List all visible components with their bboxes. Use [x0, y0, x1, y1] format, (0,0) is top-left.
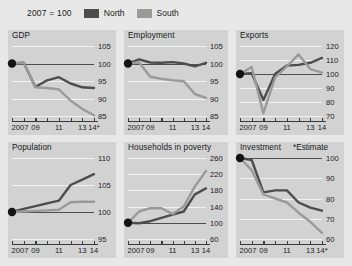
- x-axis-tick: [59, 241, 60, 244]
- x-axis-tick: [184, 118, 185, 121]
- y-axis-tick-label: 120: [326, 42, 339, 51]
- x-axis-tick-label: 14*: [88, 123, 99, 132]
- y-axis-tick-label: 95: [98, 77, 106, 86]
- x-axis-tick: [299, 241, 300, 244]
- y-axis-tick-label: 105: [210, 42, 223, 51]
- chart-panel: Employment859095100105200709111314: [124, 30, 228, 135]
- x-axis-tick: [206, 241, 207, 244]
- x-axis-tick: [240, 118, 241, 121]
- origin-marker-dot: [124, 59, 132, 67]
- y-axis-tick-label: 140: [210, 202, 223, 211]
- y-axis-tick-label: 105: [98, 42, 111, 51]
- y-axis-tick-label: 110: [98, 154, 110, 163]
- x-axis-tick-label: 09: [259, 123, 267, 132]
- series-line-north: [240, 158, 322, 211]
- x-axis-tick-label: 14: [90, 246, 98, 255]
- x-axis-tick-label: 2007: [128, 123, 145, 132]
- y-axis-tick-label: 100: [210, 59, 223, 68]
- x-axis-tick: [206, 118, 207, 121]
- panel-title: Households in poverty: [128, 143, 211, 152]
- x-axis-tick-label: 13: [191, 123, 199, 132]
- y-axis-tick-label: 100: [326, 154, 339, 163]
- legend-base-label: 2007 = 100: [27, 8, 72, 18]
- x-axis-line: [240, 121, 326, 122]
- x-axis-tick: [24, 241, 25, 244]
- legend-swatch-north: [84, 9, 99, 18]
- panel-title: Exports: [240, 31, 268, 40]
- x-axis-tick-label: 11: [283, 123, 291, 132]
- x-axis-tick: [252, 241, 253, 244]
- y-axis-tick-label: 90: [210, 94, 218, 103]
- x-axis-tick: [299, 118, 300, 121]
- gridline: [240, 116, 322, 117]
- x-axis-tick: [128, 241, 129, 244]
- chart-panel: Exports708090100110120200709111314: [236, 30, 344, 135]
- y-axis-tick-label: 105: [98, 181, 111, 190]
- x-axis-tick: [240, 241, 241, 244]
- y-axis-tick-label: 85: [210, 112, 218, 121]
- plot-area: 708090100110120: [240, 46, 322, 116]
- legend-label-south: South: [157, 8, 179, 18]
- series-lines: [128, 46, 206, 116]
- x-axis-tick: [263, 241, 264, 244]
- x-axis-tick: [71, 241, 72, 244]
- series-line-north: [12, 174, 94, 212]
- series-line-south: [128, 63, 206, 98]
- panel-title: GDP: [12, 31, 30, 40]
- y-axis-tick-label: 60: [326, 235, 334, 244]
- series-lines: [12, 158, 94, 239]
- y-axis-tick-label: 90: [98, 94, 106, 103]
- x-axis-tick-label: 11: [55, 123, 63, 132]
- x-axis-tick-label: 11: [169, 246, 177, 255]
- x-axis-tick: [35, 118, 36, 121]
- x-axis-line: [128, 244, 210, 245]
- x-axis-tick: [310, 241, 311, 244]
- x-axis-line: [12, 121, 98, 122]
- plot-area: 859095100105: [12, 46, 94, 116]
- x-axis-tick: [47, 118, 48, 121]
- series-lines: [12, 46, 94, 116]
- y-axis-tick-label: 60: [210, 235, 218, 244]
- x-axis-tick-label: 13: [306, 246, 314, 255]
- x-axis-tick-label: 2007: [12, 123, 29, 132]
- gridline: [128, 239, 206, 240]
- x-axis-tick: [252, 118, 253, 121]
- y-axis-tick-label: 70: [326, 214, 334, 223]
- panel-title: Investment: [240, 143, 281, 152]
- y-axis-tick-label: 90: [326, 84, 334, 93]
- chart-panel: Population95100105110200709111314: [8, 142, 116, 258]
- x-axis-tick: [82, 118, 83, 121]
- series-line-north: [240, 58, 322, 100]
- x-axis-tick: [173, 241, 174, 244]
- y-axis-tick-label: 110: [326, 56, 338, 65]
- x-axis-tick: [59, 118, 60, 121]
- x-axis-tick: [195, 118, 196, 121]
- x-axis-tick: [94, 118, 95, 121]
- y-axis-tick-label: 90: [326, 174, 334, 183]
- x-axis-tick-label: 2007: [240, 123, 257, 132]
- x-axis-tick-label: 14*: [316, 246, 327, 255]
- y-axis-tick-label: 100: [210, 218, 223, 227]
- x-axis-tick: [94, 241, 95, 244]
- y-axis-tick-label: 95: [98, 235, 106, 244]
- x-axis-tick-label: 09: [31, 246, 39, 255]
- x-axis-tick: [322, 118, 323, 121]
- x-axis-tick-label: 14: [202, 246, 210, 255]
- x-axis-tick: [12, 118, 13, 121]
- x-axis-line: [240, 244, 326, 245]
- origin-marker-dot: [8, 208, 16, 216]
- x-axis-tick: [287, 241, 288, 244]
- series-lines: [240, 46, 322, 116]
- chart-figure: 2007 = 100 North South GDP85909510010520…: [0, 0, 352, 266]
- gridline: [12, 116, 94, 117]
- x-axis-tick: [12, 241, 13, 244]
- chart-panel: GDP859095100105200709111314*: [8, 30, 116, 135]
- y-axis-tick-label: 100: [98, 208, 111, 217]
- x-axis-tick-label: 09: [259, 246, 267, 255]
- x-axis-tick: [35, 241, 36, 244]
- y-axis-tick-label: 80: [326, 98, 334, 107]
- series-lines: [240, 158, 322, 239]
- plot-area: 95100105110: [12, 158, 94, 239]
- plot-area: 859095100105: [128, 46, 206, 116]
- x-axis-tick-label: 13: [78, 246, 86, 255]
